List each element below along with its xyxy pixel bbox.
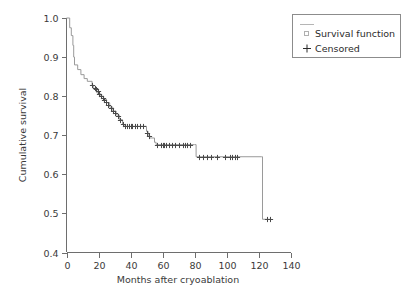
x-tick-label: 80 <box>189 260 201 271</box>
x-tick-label: 60 <box>157 260 169 271</box>
survival-chart-figure: 1.00.90.80.70.60.50.4 020406080100120140… <box>0 0 417 297</box>
legend: Survival function Censored <box>293 15 401 58</box>
legend-label-censored: Censored <box>315 43 360 54</box>
y-axis-title: Cumulative survival <box>17 88 28 182</box>
y-tick-label: 0.6 <box>43 169 58 180</box>
x-tick-label: 140 <box>282 260 300 271</box>
y-tick-label: 0.7 <box>43 130 58 141</box>
legend-label-survival-function: Survival function <box>315 28 395 39</box>
y-tick-label: 0.4 <box>43 248 58 259</box>
x-tick-label: 20 <box>93 260 105 271</box>
x-tick-label: 0 <box>64 260 70 271</box>
kaplan-meier-chart: 1.00.90.80.70.60.50.4 020406080100120140… <box>0 0 417 297</box>
y-tick-label: 0.8 <box>43 91 58 102</box>
y-tick-label: 0.5 <box>43 208 58 219</box>
x-tick-label: 40 <box>125 260 137 271</box>
y-tick-label: 1.0 <box>43 13 58 24</box>
x-tick-label: 120 <box>250 260 268 271</box>
x-tick-label: 100 <box>218 260 236 271</box>
y-tick-label: 0.9 <box>43 52 58 63</box>
x-axis-title: Months after cryoablation <box>117 274 239 285</box>
